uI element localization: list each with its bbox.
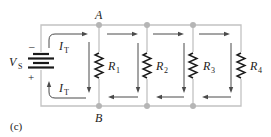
resistor-r3-label: R	[202, 59, 211, 73]
node-top-3	[190, 22, 196, 28]
resistor-r3-subscript: 3	[211, 66, 215, 75]
current-label-top-subscript: T	[64, 46, 69, 55]
resistor-r4-icon	[237, 52, 245, 79]
node-b-dot	[96, 103, 102, 109]
node-bottom-2	[144, 103, 150, 109]
source-voltage-label: V	[9, 55, 18, 69]
resistor-r2-icon	[143, 52, 151, 79]
parallel-circuit-diagram: – + V S A B R 1 R 2 R 3 R 4	[0, 0, 271, 137]
node-a-label: A	[94, 8, 103, 22]
current-label-bottom-subscript: T	[64, 88, 69, 97]
battery-positive-sign: +	[28, 71, 34, 83]
node-a-dot	[96, 22, 102, 28]
figure-caption: (c)	[10, 120, 23, 133]
resistor-r2-label: R	[155, 59, 164, 73]
resistor-r4-label: R	[249, 59, 258, 73]
node-top-2	[144, 22, 150, 28]
resistor-r1-label: R	[107, 59, 116, 73]
source-voltage-subscript: S	[18, 62, 22, 71]
resistor-r1-icon	[95, 52, 103, 79]
battery-negative-sign: –	[28, 40, 35, 52]
resistor-r1-subscript: 1	[116, 66, 120, 75]
node-bottom-3	[190, 103, 196, 109]
resistor-r2-subscript: 2	[164, 66, 168, 75]
resistor-r4-subscript: 4	[258, 66, 262, 75]
resistor-r3-icon	[189, 52, 197, 79]
node-b-label: B	[95, 111, 103, 125]
